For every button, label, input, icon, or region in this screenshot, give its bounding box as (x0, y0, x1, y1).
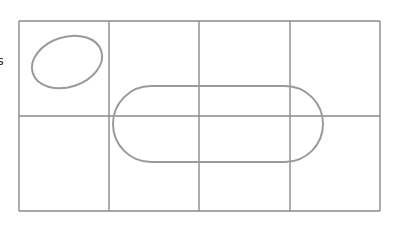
kmap-groupings (25, 27, 323, 162)
kmap-diagram (0, 0, 395, 225)
four-cell-loop (113, 86, 323, 162)
single-cell-loop (25, 27, 109, 97)
kmap-grid (19, 21, 380, 211)
